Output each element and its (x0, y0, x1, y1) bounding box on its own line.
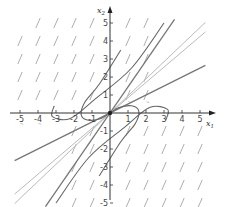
x-axis-label: x1 (206, 119, 214, 129)
slope-mark (144, 198, 148, 207)
slope-mark (72, 198, 76, 207)
slope-mark (90, 198, 94, 207)
slope-mark (54, 72, 58, 82)
x-tick-label: -3 (52, 115, 60, 124)
x-tick-label: -4 (34, 115, 42, 124)
slope-mark (198, 126, 202, 136)
slope-mark (144, 36, 148, 46)
slope-mark (90, 18, 94, 28)
slope-mark (126, 54, 130, 64)
slope-mark (180, 144, 184, 154)
slope-mark (54, 90, 58, 100)
slope-mark (162, 198, 166, 207)
slope-mark (36, 54, 40, 64)
origin-point (108, 111, 112, 115)
slope-mark (144, 180, 148, 190)
slope-mark (144, 144, 148, 154)
phase-portrait: -5-4-3-2-112345-5-4-3-2-112345 x1 x2 (0, 0, 228, 207)
slope-mark (198, 180, 202, 190)
slope-mark (198, 198, 202, 207)
y-tick-label: 4 (103, 37, 108, 46)
x-tick-label: 3 (161, 115, 166, 124)
y-tick-label: -5 (100, 199, 108, 207)
slope-mark (162, 180, 166, 190)
y-tick-label: 1 (103, 91, 108, 100)
x-tick-label: -5 (16, 115, 24, 124)
slope-mark (90, 162, 94, 172)
slope-mark (72, 18, 76, 28)
x-tick-label: -1 (88, 115, 96, 124)
slope-mark (144, 162, 148, 172)
x-axis-arrow-icon (209, 111, 216, 116)
slope-mark (180, 180, 184, 190)
slope-mark (72, 90, 76, 100)
slope-mark (162, 144, 166, 154)
slope-mark (126, 198, 130, 207)
y-axis-arrow-icon (108, 6, 113, 13)
slope-mark (72, 180, 76, 190)
slope-mark (146, 102, 149, 103)
slope-mark (126, 18, 130, 28)
x-tick-label: 5 (197, 115, 202, 124)
y-tick-label: -1 (100, 127, 108, 136)
slope-mark (18, 90, 22, 100)
y-tick-label: 3 (103, 55, 108, 64)
x-tick-label: -2 (70, 115, 78, 124)
slope-mark (162, 162, 166, 172)
y-tick-label: 5 (103, 19, 108, 28)
slope-mark (54, 18, 58, 28)
slope-mark (36, 36, 40, 46)
slope-mark (90, 72, 94, 82)
y-tick-label: -2 (100, 145, 108, 154)
slope-mark (18, 36, 22, 46)
slope-mark (90, 36, 94, 46)
slope-mark (90, 180, 94, 190)
slope-mark (126, 144, 130, 154)
x-tick-label: 1 (125, 115, 130, 124)
slope-mark (90, 54, 94, 64)
slope-mark (36, 90, 40, 100)
y-tick-label: -4 (100, 181, 108, 190)
slope-mark (18, 72, 22, 82)
slope-mark (54, 36, 58, 46)
y-tick-label: -3 (100, 163, 108, 172)
slope-mark (72, 72, 76, 82)
slope-mark (180, 198, 184, 207)
slope-mark (180, 126, 184, 136)
slope-mark (36, 72, 40, 82)
slope-mark (126, 180, 130, 190)
slope-mark (126, 36, 130, 46)
slope-mark (198, 144, 202, 154)
slope-mark (54, 54, 58, 64)
axes: -5-4-3-2-112345-5-4-3-2-112345 x1 x2 (10, 6, 216, 207)
y-tick-label: 2 (103, 73, 108, 82)
slope-mark (180, 162, 184, 172)
y-axis-label: x2 (97, 6, 106, 16)
slope-mark (198, 162, 202, 172)
slope-mark (36, 18, 40, 28)
slope-mark (72, 54, 76, 64)
slope-mark (144, 126, 148, 136)
slope-mark (162, 126, 166, 136)
x-tick-label: 4 (179, 115, 184, 124)
slope-mark (72, 36, 76, 46)
slope-mark (18, 54, 22, 64)
slope-mark (144, 18, 148, 28)
x-tick-label: 2 (143, 115, 148, 124)
slope-mark (126, 162, 130, 172)
